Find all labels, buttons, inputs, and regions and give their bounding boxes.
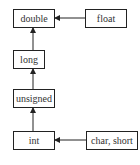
node-float: float bbox=[85, 9, 127, 28]
node-char-short: char, short bbox=[86, 131, 138, 150]
node-long: long bbox=[13, 50, 45, 69]
node-int: int bbox=[13, 131, 55, 150]
node-double: double bbox=[13, 9, 55, 28]
node-unsigned: unsigned bbox=[13, 89, 55, 108]
